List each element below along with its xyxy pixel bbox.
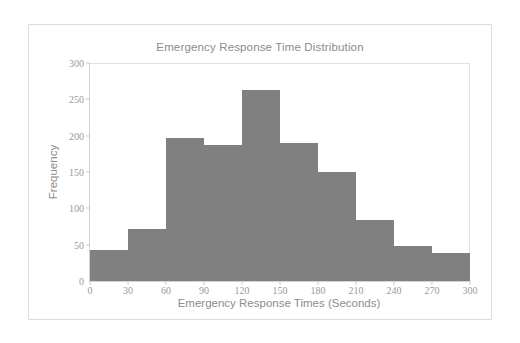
y-tick-mark	[86, 244, 90, 245]
x-tick-mark	[280, 281, 281, 285]
histogram-bars	[90, 63, 470, 281]
histogram-bar	[432, 253, 470, 281]
y-axis-label: Frequency	[45, 63, 61, 281]
x-tick-label: 150	[273, 285, 288, 296]
x-tick-mark	[394, 281, 395, 285]
chart-figure: Emergency Response Time Distribution Fre…	[28, 24, 492, 320]
x-tick-label: 210	[349, 285, 364, 296]
histogram-bar	[280, 143, 318, 281]
y-tick-label: 100	[69, 203, 84, 214]
x-tick-mark	[204, 281, 205, 285]
y-tick-label: 50	[74, 239, 84, 250]
y-tick-label: 250	[69, 94, 84, 105]
x-tick-mark	[166, 281, 167, 285]
y-tick-mark	[86, 208, 90, 209]
y-tick-label: 300	[69, 58, 84, 69]
y-tick-label: 150	[69, 167, 84, 178]
x-tick-mark	[356, 281, 357, 285]
y-tick-mark	[86, 63, 90, 64]
histogram-bar	[128, 229, 166, 281]
histogram-bar	[204, 145, 242, 281]
y-axis-label-text: Frequency	[47, 145, 59, 199]
histogram-bar	[242, 90, 280, 281]
histogram-bar	[166, 138, 204, 281]
y-tick-mark	[86, 99, 90, 100]
x-tick-label: 240	[387, 285, 402, 296]
y-tick-mark	[86, 172, 90, 173]
x-tick-mark	[432, 281, 433, 285]
x-tick-label: 60	[161, 285, 171, 296]
histogram-bar	[394, 246, 432, 281]
chart-title: Emergency Response Time Distribution	[29, 41, 491, 53]
x-axis-label: Emergency Response Times (Seconds)	[89, 297, 469, 309]
x-tick-mark	[128, 281, 129, 285]
x-tick-mark	[318, 281, 319, 285]
x-tick-label: 30	[123, 285, 133, 296]
x-tick-label: 90	[199, 285, 209, 296]
x-tick-label: 120	[235, 285, 250, 296]
y-tick-label: 200	[69, 130, 84, 141]
histogram-bar	[356, 220, 394, 281]
histogram-bar	[90, 250, 128, 281]
x-tick-mark	[242, 281, 243, 285]
histogram-bar	[318, 172, 356, 281]
x-tick-label: 300	[463, 285, 478, 296]
x-tick-label: 0	[88, 285, 93, 296]
y-tick-label: 0	[79, 276, 84, 287]
plot-area: 050100150200250300 030609012015018021024…	[89, 63, 470, 282]
x-tick-label: 180	[311, 285, 326, 296]
x-tick-mark	[470, 281, 471, 285]
y-tick-mark	[86, 135, 90, 136]
x-tick-mark	[90, 281, 91, 285]
x-tick-label: 270	[425, 285, 440, 296]
